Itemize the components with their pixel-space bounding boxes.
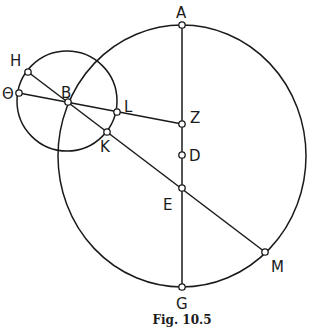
point-m: [262, 249, 268, 255]
segment-theta-z: [19, 93, 182, 124]
circles-layer: [17, 25, 306, 287]
point-a: [179, 22, 185, 28]
label-m: M: [271, 258, 284, 276]
label-b: B: [61, 84, 71, 102]
label-h: H: [10, 52, 21, 70]
point-g: [179, 284, 185, 290]
point-theta: [16, 90, 22, 96]
point-e: [179, 185, 185, 191]
label-l: L: [124, 98, 133, 116]
label-theta: Θ: [2, 85, 14, 103]
point-l: [114, 109, 120, 115]
points-layer: [16, 22, 268, 290]
point-k: [104, 129, 110, 135]
label-a: A: [176, 4, 187, 22]
geometry-figure: AGZDEBHΘLKM Fig. 10.5: [0, 0, 310, 328]
label-e: E: [163, 196, 172, 214]
label-d: D: [189, 147, 201, 165]
label-g: G: [176, 295, 188, 313]
point-z: [179, 121, 185, 127]
label-z: Z: [190, 109, 200, 127]
segments-layer: [19, 25, 265, 287]
figure-caption: Fig. 10.5: [152, 313, 211, 327]
point-d: [179, 152, 185, 158]
label-k: K: [100, 138, 111, 156]
point-h: [25, 69, 31, 75]
